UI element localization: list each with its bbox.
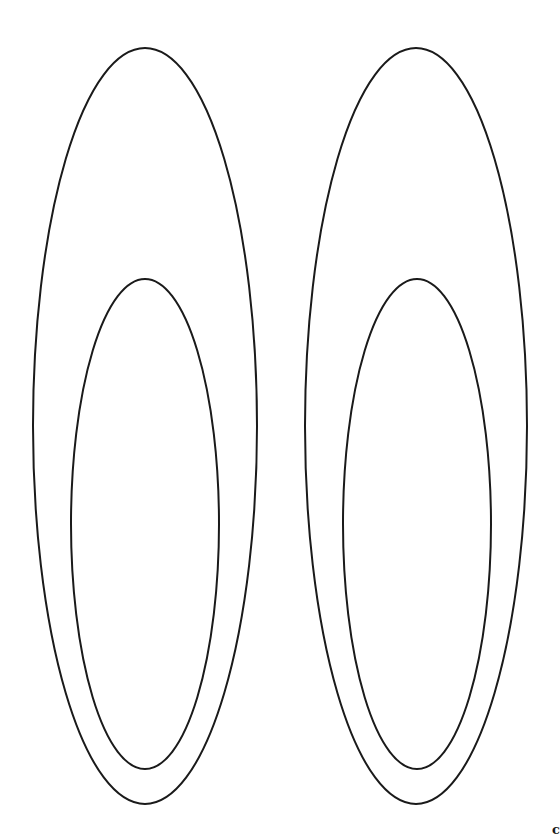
right-inner-ellipse bbox=[343, 279, 491, 769]
corner-letter: c bbox=[552, 823, 560, 836]
left-outer-ellipse bbox=[33, 48, 257, 804]
right-outer-ellipse bbox=[305, 48, 527, 804]
left-inner-ellipse bbox=[71, 279, 219, 769]
